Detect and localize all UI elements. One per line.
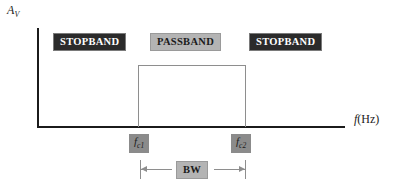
bandwidth-arrowhead-right-icon (239, 166, 245, 172)
bandwidth-tick-right (245, 160, 246, 179)
cutoff-frequency-label-fc1: fc1 (129, 134, 149, 153)
bandpass-filter-response-diagram: AV f(Hz) STOPBAND PASSBAND STOPBAND fc1 … (0, 0, 409, 193)
fc2-subscript: c2 (239, 141, 246, 150)
cutoff-frequency-label-fc2: fc2 (231, 134, 251, 153)
y-axis-label-subscript: V (15, 10, 20, 19)
y-axis-label-letter: A (7, 3, 15, 17)
passband-response-rectangle (138, 65, 246, 127)
stopband-label-left: STOPBAND (53, 33, 126, 51)
x-axis-label: f(Hz) (354, 112, 379, 127)
passband-label: PASSBAND (150, 33, 221, 51)
vertical-axis-line (37, 28, 39, 128)
y-axis-label: AV (7, 3, 20, 19)
bandwidth-arrowhead-left-icon (141, 166, 147, 172)
stopband-label-right: STOPBAND (249, 33, 322, 51)
x-axis-label-unit: (Hz) (357, 112, 379, 126)
fc1-subscript: c1 (137, 141, 144, 150)
bandwidth-label: BW (176, 161, 208, 179)
